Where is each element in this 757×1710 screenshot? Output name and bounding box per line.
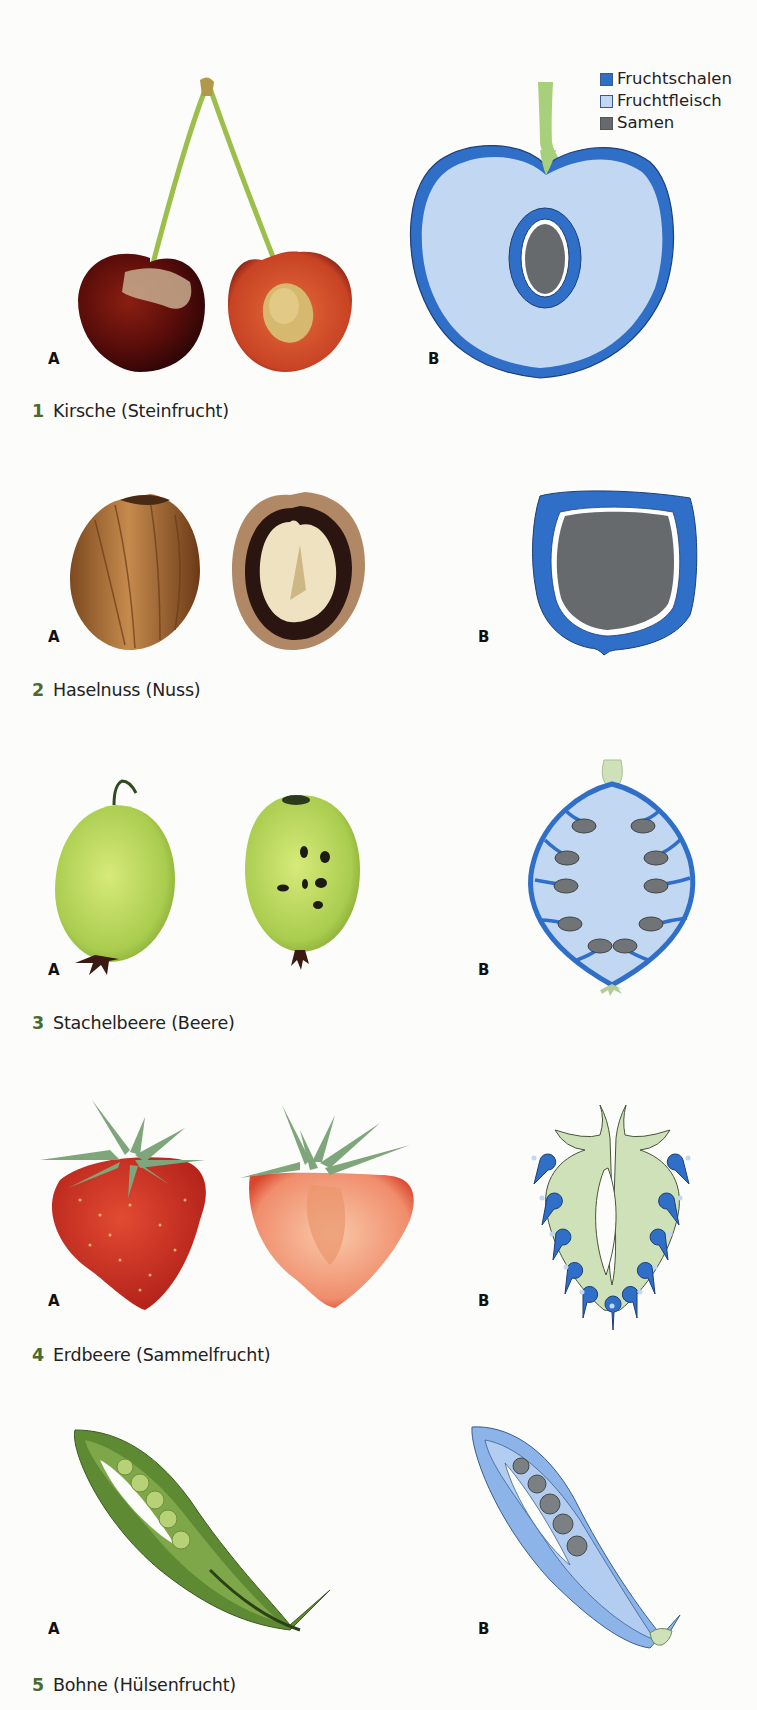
figure-title: Bohne (Hülsenfrucht) xyxy=(53,1675,236,1695)
figure-number: 5 xyxy=(32,1675,44,1695)
panel-label-b: B xyxy=(478,1620,489,1638)
bean-diagram xyxy=(0,0,757,1700)
figure-caption-5: 5Bohne (Hülsenfrucht) xyxy=(32,1675,236,1695)
